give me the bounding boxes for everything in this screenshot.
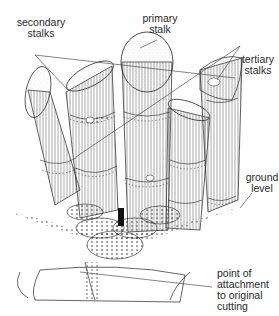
- label-ground-level: ground level: [244, 172, 279, 194]
- label-secondary-stalks: secondary stalks: [7, 17, 75, 39]
- label-primary-stalk: primary stalk: [138, 13, 182, 35]
- label-tertiary-stalks: tertiary stalks: [236, 54, 279, 76]
- primary-stalk: [121, 32, 173, 232]
- label-point-of-attachment: point of attachment to original cutting: [217, 268, 279, 312]
- leader-ground: [240, 193, 252, 208]
- secondary-stalk-right: [200, 57, 242, 213]
- original-cutting: [17, 262, 190, 302]
